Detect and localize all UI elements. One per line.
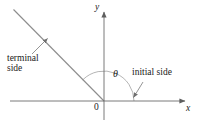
angle-arc	[83, 71, 134, 101]
terminal-side-label-line1: terminal	[7, 53, 39, 63]
y-axis-label: y	[95, 3, 99, 13]
terminal-side-label-line2: side	[7, 63, 22, 73]
x-axis-label: x	[186, 104, 190, 114]
origin-label: 0	[94, 103, 99, 113]
theta-label: θ	[113, 69, 118, 80]
terminal-side-leader-line	[32, 39, 48, 55]
initial-side-label: initial side	[132, 68, 172, 78]
angle-diagram-figure: terminalside initial side θ x y 0	[0, 0, 201, 128]
terminal-side-label: terminalside	[7, 54, 39, 74]
initial-side-leader-line	[134, 82, 144, 98]
